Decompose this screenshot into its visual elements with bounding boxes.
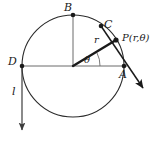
point-c-dot xyxy=(99,24,104,29)
point-d-label: D xyxy=(8,56,17,67)
diagram-canvas xyxy=(0,0,164,142)
polar-circle-diagram: B C P(r,θ) D A r θ l xyxy=(0,0,164,142)
point-a-label: A xyxy=(119,69,127,80)
angle-theta-label: θ xyxy=(84,55,90,65)
radius-label: r xyxy=(94,35,99,45)
point-b-label: B xyxy=(64,2,72,13)
point-p-dot xyxy=(113,37,118,42)
point-d-dot xyxy=(20,64,25,69)
line-l-label: l xyxy=(12,86,16,97)
point-c-label: C xyxy=(104,19,112,30)
point-p-label: P(r,θ) xyxy=(122,33,149,43)
angle-arc xyxy=(97,53,100,66)
